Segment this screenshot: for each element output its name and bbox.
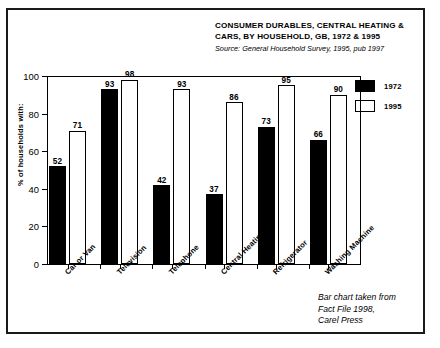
bar: 73 (258, 127, 275, 264)
bar-value-label: 66 (314, 130, 323, 139)
bar-value-label: 52 (53, 157, 62, 166)
bar-value-label: 37 (209, 185, 218, 194)
bar: 37 (206, 194, 223, 264)
y-tick-label: 60 (29, 146, 39, 157)
bar-value-label: 71 (73, 121, 82, 130)
figure-credit: Bar chart taken from Fact File 1998, Car… (318, 292, 396, 327)
bar: 71 (69, 131, 86, 264)
bar-value-label: 42 (157, 176, 166, 185)
x-axis-labels: Car or VanTelevisionTelephoneCentral Hea… (47, 270, 360, 334)
x-tick-boundary (309, 264, 310, 269)
bar-value-label: 98 (125, 70, 134, 79)
bar-value-label: 73 (262, 117, 271, 126)
legend-label-1972: 1972 (384, 82, 402, 91)
bar: 95 (278, 85, 295, 264)
x-tick-boundary (205, 264, 206, 269)
bars-layer: 527193984293378673956690 (48, 76, 361, 264)
bar: 93 (101, 89, 118, 264)
bar: 93 (173, 89, 190, 264)
chart-legend: 1972 1995 (355, 76, 402, 116)
bar-value-label: 93 (105, 80, 114, 89)
bar-value-label: 90 (334, 85, 343, 94)
legend-label-1995: 1995 (384, 102, 402, 111)
chart-source: Source: General Household Survey, 1995, … (215, 44, 420, 54)
x-tick-boundary (100, 264, 101, 269)
bar: 42 (153, 185, 170, 264)
legend-item-1972: 1972 (355, 76, 402, 96)
bar: 66 (310, 140, 327, 264)
bar: 90 (330, 95, 347, 264)
bar: 86 (226, 102, 243, 264)
chart-title: CONSUMER DURABLES, CENTRAL HEATING & CAR… (215, 20, 420, 43)
title-block: CONSUMER DURABLES, CENTRAL HEATING & CAR… (215, 20, 420, 54)
bar-value-label: 93 (177, 80, 186, 89)
bar: 98 (121, 80, 138, 264)
plot-area: 020406080100 527193984293378673956690 (47, 76, 361, 265)
bar: 52 (49, 166, 66, 264)
y-tick-label: 20 (29, 221, 39, 232)
y-tick-label: 0 (34, 259, 39, 270)
y-axis-title: % of households with: (16, 103, 25, 186)
x-tick-boundary (257, 264, 258, 269)
bar-value-label: 95 (282, 76, 291, 85)
y-tick-label: 80 (29, 108, 39, 119)
y-tick-mark (42, 264, 48, 265)
y-tick-label: 100 (23, 71, 39, 82)
y-tick-label: 40 (29, 183, 39, 194)
legend-item-1995: 1995 (355, 96, 402, 116)
x-tick-boundary (152, 264, 153, 269)
bar-value-label: 86 (229, 93, 238, 102)
